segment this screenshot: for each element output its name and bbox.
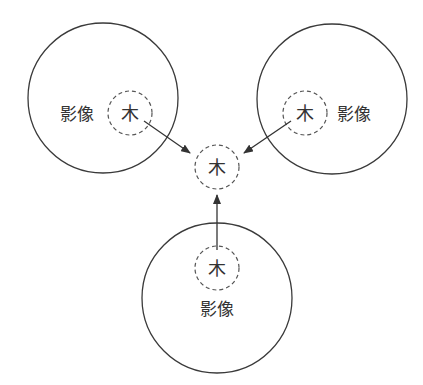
image-circle-right (257, 24, 407, 174)
image-label-left: 影像 (60, 104, 94, 124)
target-tree-label: 木 (208, 157, 226, 178)
image-circle-left (28, 23, 178, 173)
tree-label-bottom: 木 (208, 258, 226, 279)
tree-label-left: 木 (121, 103, 139, 124)
tree-label-right: 木 (296, 103, 314, 124)
arrow-left-to-target (144, 121, 190, 153)
image-label-right: 影像 (337, 104, 371, 124)
arrow-right-to-target (244, 121, 291, 153)
image-label-bottom: 影像 (200, 299, 234, 319)
image-group-left: 木 影像 (28, 23, 178, 173)
image-group-right: 木 影像 (257, 24, 407, 174)
target-group: 木 (195, 145, 239, 189)
tree-image-convergence-diagram: 木 影像 木 影像 木 影像 木 (0, 0, 423, 385)
